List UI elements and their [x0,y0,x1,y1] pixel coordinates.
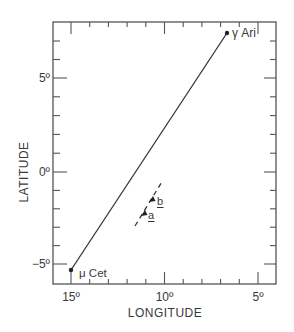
y-tick-label-0: 0º [39,165,51,179]
gamma-ari-label: γ Ari [232,26,256,40]
y-axis-right-ticks [264,41,276,264]
gamma-ari-point [225,31,229,35]
plot-frame [53,22,276,284]
mark-b-label: b [157,195,163,207]
x-tick-label-5: 5º [252,290,264,304]
x-tick-label-10: 10º [156,290,174,304]
great-circle-line [71,33,227,270]
arrow-b-icon [149,196,156,202]
x-axis-top-ticks [71,22,258,34]
x-tick-label-15: 15º [62,290,80,304]
arrow-a-icon [141,210,148,216]
mu-cet-point [69,268,73,272]
y-axis-title: LATITUDE [17,141,31,202]
y-tick-label-5: 5º [39,71,51,85]
mu-cet-label: μ Cet [79,267,108,279]
y-axis-ticks [53,41,67,264]
y-tick-label-minus5: −5º [32,257,51,271]
chart: 15º 10º 5º 5º 0º −5º LONGITUDE LATITUDE … [0,0,294,332]
x-axis-title: LONGITUDE [128,306,203,320]
mark-a-label: a [148,209,155,221]
